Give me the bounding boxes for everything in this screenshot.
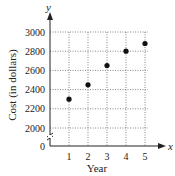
x-tick-label: 2 bbox=[86, 151, 91, 162]
x-tick-label: 5 bbox=[143, 151, 148, 162]
x-axis-variable: x bbox=[167, 140, 173, 152]
data-point bbox=[104, 63, 109, 68]
x-tick-label: 3 bbox=[105, 151, 110, 162]
y-tick-label: 0 bbox=[40, 141, 45, 152]
y-axis-label: Cost (in dollars) bbox=[6, 49, 19, 121]
x-axis-label: Year bbox=[87, 162, 108, 174]
y-tick-label: 2000 bbox=[25, 123, 45, 134]
y-tick-label: 2600 bbox=[25, 65, 45, 76]
x-tick-labels: 12345 bbox=[67, 151, 148, 162]
data-point bbox=[142, 41, 147, 46]
scatter-chart: 0200022002400260028003000 12345 x y Year… bbox=[0, 0, 175, 176]
y-tick-label: 2200 bbox=[25, 103, 45, 114]
grid-lines bbox=[50, 32, 148, 146]
y-tick-label: 2400 bbox=[25, 84, 45, 95]
x-tick-label: 4 bbox=[124, 151, 129, 162]
axes bbox=[47, 12, 166, 149]
data-point bbox=[85, 82, 90, 87]
x-tick-label: 1 bbox=[67, 151, 72, 162]
y-tick-label: 3000 bbox=[25, 27, 45, 38]
y-axis-variable: y bbox=[45, 1, 51, 13]
y-tick-labels: 0200022002400260028003000 bbox=[25, 27, 45, 152]
data-point bbox=[66, 97, 71, 102]
data-point bbox=[123, 49, 128, 54]
y-tick-label: 2800 bbox=[25, 46, 45, 57]
